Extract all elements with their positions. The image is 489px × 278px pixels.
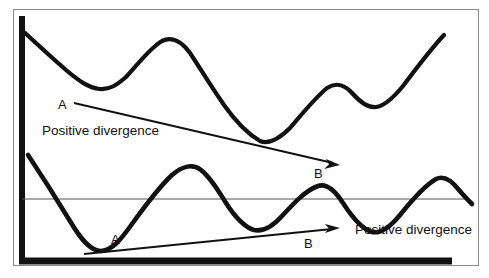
lower-point-b-label: B bbox=[304, 236, 313, 251]
upper-point-a-label: A bbox=[58, 97, 67, 112]
screenshot-root: A B A B Positive divergence Positive div… bbox=[0, 0, 489, 278]
lower-point-a-label: A bbox=[111, 232, 120, 247]
upper-positive-divergence-label: Positive divergence bbox=[42, 123, 159, 138]
lower-trendline-arrowhead bbox=[325, 224, 340, 233]
upper-point-b-label: B bbox=[314, 166, 323, 181]
upper-trendline-arrowhead bbox=[324, 159, 340, 169]
divergence-chart: A B A B Positive divergence Positive div… bbox=[0, 0, 489, 278]
lower-positive-divergence-label: Positive divergence bbox=[355, 222, 472, 237]
